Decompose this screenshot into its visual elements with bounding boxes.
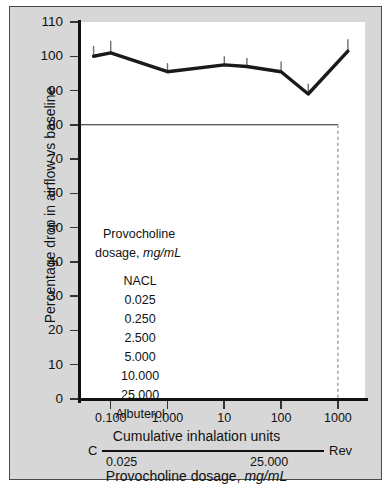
- legend-item-list: NACL0.0250.2502.5005.00010.00025.000Albu…: [95, 272, 181, 424]
- x-tick-label: 1000: [324, 411, 352, 425]
- legend-header-line1: Provocholine: [95, 225, 181, 244]
- legend-item: Albuterol: [99, 405, 181, 424]
- x-tick-mark: [337, 401, 339, 409]
- legend-header-plain: dosage,: [95, 246, 143, 260]
- legend-item: 25.000: [99, 386, 181, 405]
- x-tick-mark: [223, 401, 225, 409]
- figure-panel: 0102030405060708090100110 0.1001.0001010…: [9, 6, 382, 480]
- x-tick-label: 100: [271, 411, 292, 425]
- y-tick-mark: [70, 364, 78, 366]
- y-tick-mark: [70, 90, 78, 92]
- y-axis-line: [78, 20, 81, 403]
- data-line: [94, 51, 348, 94]
- x-tick-label: 10: [217, 411, 231, 425]
- secondary-axis-right-value: 25.000: [250, 455, 288, 469]
- y-tick-mark: [70, 124, 78, 126]
- secondary-axis-left-cap: C: [88, 443, 97, 458]
- legend-item: 2.500: [99, 329, 181, 348]
- y-tick-mark: [70, 21, 78, 23]
- legend-item: 5.000: [99, 348, 181, 367]
- y-tick-mark: [70, 398, 78, 400]
- secondary-axis-left-value: 0.025: [106, 455, 137, 469]
- legend-item: 10.000: [99, 367, 181, 386]
- legend-item: 0.025: [99, 291, 181, 310]
- secondary-axis-title-units: mg/mL: [244, 468, 287, 484]
- y-tick-mark: [70, 330, 78, 332]
- y-tick-mark: [70, 193, 78, 195]
- secondary-axis-title: Provocholine dosage, mg/mL: [10, 468, 383, 484]
- y-tick-mark: [70, 295, 78, 297]
- y-tick-mark: [70, 158, 78, 160]
- legend-header-line2: dosage, mg/mL: [95, 244, 181, 263]
- y-tick-mark: [70, 227, 78, 229]
- legend-item: 0.250: [99, 310, 181, 329]
- y-tick-mark: [70, 261, 78, 263]
- x-tick-mark: [280, 401, 282, 409]
- secondary-axis-line: [102, 450, 324, 452]
- y-axis-title: Percentage drop in airflow vs baseline: [42, 10, 58, 400]
- y-tick-mark: [70, 56, 78, 58]
- legend-header-units: mg/mL: [143, 246, 181, 260]
- chart-legend: Provocholine dosage, mg/mL NACL0.0250.25…: [95, 225, 181, 424]
- secondary-axis-title-plain: Provocholine dosage,: [106, 468, 245, 484]
- x-axis-title: Cumulative inhalation units: [10, 428, 383, 444]
- legend-item: NACL: [99, 272, 181, 291]
- secondary-axis-right-cap: Rev: [329, 443, 352, 458]
